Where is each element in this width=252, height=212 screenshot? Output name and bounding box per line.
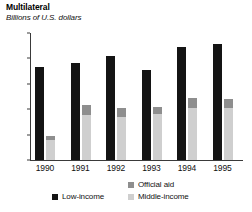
x-axis-label: 1992	[107, 163, 126, 173]
bar-group	[213, 33, 233, 160]
x-axis-label: 1991	[71, 163, 90, 173]
y-axis-line	[30, 33, 31, 160]
bar-segment-middle-income	[117, 117, 126, 160]
bar-low-income	[35, 67, 44, 160]
y-axis-tick-mark	[27, 109, 30, 110]
bar-stack-aid	[153, 107, 162, 160]
bar-segment-middle-income	[46, 140, 55, 160]
legend-item-low-income: Low-income	[52, 192, 104, 201]
chart-subtitle: Billions of U.S. dollars	[6, 13, 81, 22]
y-axis-tick-mark	[27, 134, 30, 135]
bar-group	[142, 33, 162, 160]
bar-low-income	[71, 63, 80, 160]
bar-segment-official-aid	[117, 108, 126, 117]
x-axis-label: 1995	[213, 163, 232, 173]
x-axis-label: 1993	[142, 163, 161, 173]
official-aid-swatch-icon	[128, 182, 134, 188]
legend-label-middle-income: Middle-income	[138, 192, 189, 201]
bar-group	[71, 33, 91, 160]
bar-stack-aid	[224, 99, 233, 160]
bar-segment-official-aid	[153, 107, 162, 115]
x-axis-label: 1990	[36, 163, 55, 173]
bar-segment-official-aid	[224, 99, 233, 108]
y-axis-tick-mark	[27, 58, 30, 59]
plot-area: 03691215	[30, 33, 243, 160]
bar-stack-aid	[82, 105, 91, 160]
bar-low-income	[213, 44, 222, 160]
bar-stack-aid	[46, 136, 55, 160]
legend-item-official-aid: Official aid	[128, 180, 174, 189]
x-axis-labels: 199019911992199319941995	[30, 163, 243, 177]
legend-item-middle-income: Middle-income	[128, 192, 189, 201]
y-axis-tick-mark	[27, 33, 30, 34]
low-income-swatch-icon	[52, 194, 58, 200]
bar-segment-official-aid	[188, 98, 197, 108]
bar-group	[106, 33, 126, 160]
bar-segment-middle-income	[153, 114, 162, 160]
chart-title: Multilateral	[6, 2, 50, 12]
bar-low-income	[106, 56, 115, 160]
bar-stack-aid	[188, 98, 197, 160]
middle-income-swatch-icon	[128, 194, 134, 200]
legend-label-official-aid: Official aid	[138, 180, 174, 189]
bar-low-income	[142, 70, 151, 160]
bar-segment-middle-income	[82, 115, 91, 160]
bar-segment-middle-income	[224, 108, 233, 160]
bar-segment-official-aid	[82, 105, 91, 115]
bar-group	[35, 33, 55, 160]
bar-stack-aid	[117, 108, 126, 160]
x-axis-label: 1994	[178, 163, 197, 173]
bar-low-income	[177, 47, 186, 160]
y-axis-tick-mark	[27, 160, 30, 161]
bar-segment-middle-income	[188, 108, 197, 160]
x-axis-line	[30, 160, 243, 161]
y-axis-tick-mark	[27, 83, 30, 84]
chart-legend: Official aid Low-income Middle-income	[52, 180, 248, 210]
legend-label-low-income: Low-income	[62, 192, 104, 201]
multilateral-bar-chart: Multilateral Billions of U.S. dollars 03…	[0, 0, 252, 212]
bar-group	[177, 33, 197, 160]
